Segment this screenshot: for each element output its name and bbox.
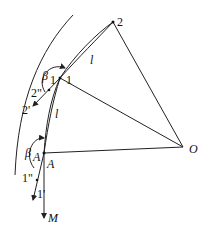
label-beta1-sub: 1 [50,73,56,87]
point-2 [112,21,115,24]
label-2dd: 2" [31,86,42,100]
point-2dd [48,89,51,92]
label-1: 1 [66,73,72,87]
label-2: 2 [117,15,123,29]
point-A [43,152,46,155]
label-betaA: β [24,146,31,160]
point-1dd [36,179,39,182]
geometry-diagram: 2 1 l l β 1 2" 2' β A A 1" 1' M O [0,0,211,235]
point-1 [59,77,62,80]
label-1dd: 1" [22,171,33,185]
label-l-top: l [90,53,94,67]
label-2d: 2' [22,103,30,117]
curve-1-2-inner [60,22,113,78]
label-beta1: β [41,69,48,83]
label-betaA-sub: A [32,150,41,164]
label-l-mid: l [55,107,59,121]
line-2-O [113,22,183,147]
line-A-O [44,147,183,153]
label-A: A [46,157,55,171]
label-O: O [189,142,198,156]
line-1-O [60,78,183,147]
label-1d: 1' [37,187,45,201]
label-M: M [47,211,59,225]
